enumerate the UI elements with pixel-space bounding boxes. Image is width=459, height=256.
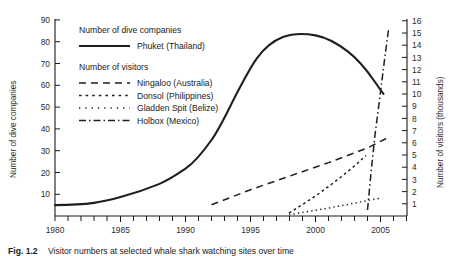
- legend-entry-ningaloo[interactable]: Ningaloo (Australia): [79, 78, 213, 88]
- axes-frame: [55, 19, 407, 216]
- right-tick-label: 14: [412, 40, 422, 50]
- right-tick-label: 10: [412, 89, 422, 99]
- left-tick-10: 10: [41, 189, 60, 199]
- legend-entry-donsol[interactable]: Donsol (Philippines): [79, 91, 214, 101]
- left-axis-title: Number of dive companies: [9, 81, 18, 178]
- left-tick-80: 80: [41, 37, 60, 47]
- x-axis-tick-labels: 1980 1985 1990 1995 2000 2005: [46, 225, 390, 235]
- right-tick-2: 2: [402, 187, 417, 197]
- x-axis-ticks: [55, 216, 407, 222]
- legend-label-gladden-spit: Gladden Spit (Belize): [137, 103, 218, 113]
- right-tick-label: 3: [412, 175, 417, 185]
- right-tick-16: 16: [402, 16, 422, 26]
- right-tick-7: 7: [402, 126, 417, 136]
- right-tick-11: 11: [402, 77, 421, 87]
- left-tick-90: 90: [41, 15, 60, 25]
- left-tick-label: 50: [41, 102, 51, 112]
- legend-label-holbox: Holbox (Mexico): [137, 116, 199, 126]
- left-tick-label: 20: [41, 168, 51, 178]
- legend-entry-gladden-spit[interactable]: Gladden Spit (Belize): [79, 103, 218, 113]
- right-tick-5: 5: [402, 150, 417, 160]
- right-tick-9: 9: [402, 101, 417, 111]
- chart-svg: 90 80 70 60 50 40 30 20: [0, 0, 459, 256]
- right-tick-15: 15: [402, 28, 422, 38]
- right-tick-12: 12: [402, 65, 422, 75]
- left-tick-label: 40: [41, 124, 51, 134]
- left-tick-20: 20: [41, 168, 60, 178]
- right-axis-ticks: 16 15 14 13 12 11 10 9: [402, 16, 422, 209]
- right-tick-3: 3: [402, 175, 417, 185]
- right-tick-label: 8: [412, 114, 417, 124]
- right-tick-8: 8: [402, 114, 417, 124]
- legend-label-phuket: Phuket (Thailand): [137, 41, 205, 51]
- left-tick-30: 30: [41, 146, 60, 156]
- left-tick-label: 30: [41, 146, 51, 156]
- x-tick-label: 1995: [241, 225, 260, 235]
- right-tick-label: 9: [412, 101, 417, 111]
- right-tick-label: 11: [412, 77, 421, 87]
- series-line-holbox: [368, 30, 389, 210]
- legend-entry-phuket[interactable]: Phuket (Thailand): [79, 41, 205, 51]
- figure-caption-text: Visitor numbers at selected whale shark …: [48, 246, 294, 256]
- right-tick-label: 12: [412, 65, 422, 75]
- figure-caption-label: Fig. 1.2: [8, 246, 38, 256]
- left-tick-label: 10: [41, 189, 51, 199]
- right-tick-10: 10: [402, 89, 422, 99]
- legend-label-ningaloo: Ningaloo (Australia): [137, 78, 213, 88]
- series-line-gladden-spit: [289, 198, 379, 214]
- x-tick-label: 1990: [176, 225, 195, 235]
- figure-caption: Fig. 1.2 Visitor numbers at selected wha…: [8, 246, 294, 256]
- right-tick-label: 15: [412, 28, 422, 38]
- series-line-phuket: [55, 34, 384, 205]
- data-series-group: [55, 30, 390, 215]
- chart-legend: Number of dive companies Phuket (Thailan…: [79, 25, 218, 126]
- left-tick-label: 60: [41, 80, 51, 90]
- right-tick-label: 13: [412, 53, 422, 63]
- right-tick-4: 4: [402, 162, 417, 172]
- right-tick-label: 4: [412, 162, 417, 172]
- left-tick-label: 90: [41, 15, 51, 25]
- left-tick-label: 70: [41, 59, 51, 69]
- x-tick-label: 2000: [306, 225, 325, 235]
- legend-group-title-visitors: Number of visitors: [79, 62, 148, 72]
- legend-entry-holbox[interactable]: Holbox (Mexico): [79, 116, 199, 126]
- x-tick-label: 2005: [371, 225, 390, 235]
- right-tick-label: 16: [412, 16, 422, 26]
- left-axis-ticks: 90 80 70 60 50 40 30 20: [41, 15, 60, 199]
- right-tick-label: 7: [412, 126, 417, 136]
- legend-label-donsol: Donsol (Philippines): [137, 91, 214, 101]
- right-axis-title: Number of visitors (thousands): [436, 76, 445, 188]
- right-tick-1: 1: [402, 199, 417, 209]
- right-tick-label: 1: [412, 199, 417, 209]
- right-tick-13: 13: [402, 53, 422, 63]
- figure-container: 90 80 70 60 50 40 30 20: [0, 0, 459, 256]
- left-tick-40: 40: [41, 124, 60, 134]
- right-tick-6: 6: [402, 138, 417, 148]
- left-tick-50: 50: [41, 102, 60, 112]
- right-tick-14: 14: [402, 40, 422, 50]
- x-tick-label: 1980: [46, 225, 65, 235]
- right-tick-label: 5: [412, 150, 417, 160]
- left-tick-70: 70: [41, 59, 60, 69]
- right-tick-label: 2: [412, 187, 417, 197]
- series-line-donsol: [289, 156, 366, 214]
- x-tick-label: 1985: [111, 225, 130, 235]
- right-tick-label: 6: [412, 138, 417, 148]
- series-line-ningaloo: [212, 137, 391, 205]
- legend-group-title-dive-companies: Number of dive companies: [79, 25, 181, 35]
- left-tick-label: 80: [41, 37, 51, 47]
- left-tick-60: 60: [41, 80, 60, 90]
